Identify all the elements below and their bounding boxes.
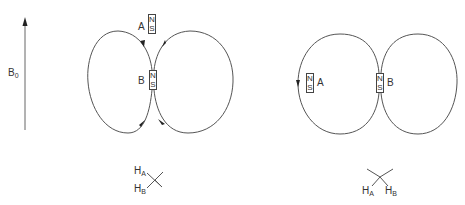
left-magnet-a: NS xyxy=(148,14,156,34)
field-arrow xyxy=(23,17,28,130)
right-arrowheads xyxy=(296,80,300,87)
left-magnet-b: NS xyxy=(149,70,157,90)
right-magnet-b: NS xyxy=(376,73,384,93)
right-molecule-ha: HA xyxy=(362,186,374,197)
field-label: B0 xyxy=(8,68,19,79)
right-magnet-a-label: A xyxy=(317,78,324,88)
right-magnet-b-label: B xyxy=(387,78,394,88)
left-field-lines xyxy=(88,31,233,133)
left-molecule-ha: HA xyxy=(134,166,146,177)
left-molecule-hb: HB xyxy=(134,184,146,195)
left-magnet-b-label: B xyxy=(138,76,145,86)
left-magnet-a-label: A xyxy=(138,22,145,32)
right-molecule-bonds xyxy=(367,169,393,186)
left-molecule-bonds xyxy=(147,172,163,188)
right-magnet-a: NS xyxy=(306,73,314,93)
dipolar-field-diagram xyxy=(0,0,465,205)
right-molecule-hb: HB xyxy=(385,186,397,197)
